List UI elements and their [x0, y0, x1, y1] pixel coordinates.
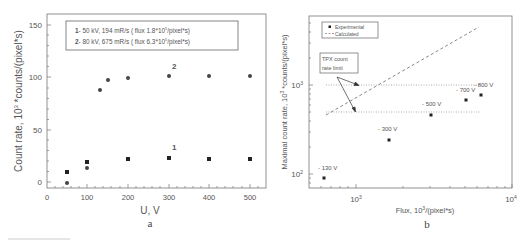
y-ticks-b	[309, 23, 313, 183]
x-axis-label-b: Flux, 103/(pixel*s)	[396, 205, 455, 215]
chart-b: 102 103 103 104 Flux, 103/(pixel*s) Maxi…	[279, 16, 517, 230]
y-axis-label-a: Count rate, 103 *counts/(pixel*s)	[13, 30, 24, 172]
tpx-label-line2: rate limit	[322, 65, 343, 71]
x-axis-label-a: U, V	[140, 205, 160, 216]
x-tick-labels-b: 103 104	[350, 194, 517, 204]
label-800v: - 800 V	[474, 82, 493, 88]
tpx-annotation: TPX count rate limit	[320, 53, 359, 112]
voltage-labels: - 130 V - 300 V - 500 V - 700 V - 800 V	[318, 82, 493, 171]
experimental-marker-icon	[329, 26, 332, 29]
x-ticks-b	[321, 184, 512, 188]
xtick-label: 300	[163, 193, 176, 202]
legend-experimental: Experimental	[335, 24, 364, 30]
series-label-2: 2	[172, 62, 177, 71]
legend-entry-2: 2- 80 kV, 675 mR/s ( flux 6.3*105/pixel*…	[75, 37, 190, 46]
figure: 0 50 100 150 0 100 200 300 400 500 U, V …	[0, 0, 529, 244]
faint-footer-mark	[8, 238, 70, 240]
ytick-label: 103	[291, 80, 303, 90]
x-ticks-a	[55, 184, 258, 188]
label-700v: - 700 V	[456, 87, 475, 93]
xtick-label: 0	[45, 193, 49, 202]
ytick-label: 50	[33, 126, 42, 135]
xtick-label: 500	[244, 193, 257, 202]
xtick-label: 400	[203, 193, 216, 202]
ytick-label: 150	[29, 21, 43, 30]
ytick-label: 100	[29, 73, 43, 82]
panel-label-b: b	[424, 218, 430, 230]
series-label-1: 1	[172, 143, 177, 152]
y-tick-labels-a: 0 50 100 150	[29, 21, 43, 187]
chart-a: 0 50 100 150 0 100 200 300 400 500 U, V …	[13, 14, 266, 229]
legend-entry-1: 1- 50 kV, 194 mR/s ( flux 1.8*105/pixel*…	[75, 26, 190, 35]
xtick-label: 200	[122, 193, 135, 202]
y-axis-label-b: Maximal count rate, 103 *counts/(pixel*s…	[279, 34, 289, 169]
arrow-head-icon	[354, 82, 359, 86]
legend-b: Experimental Calculated	[322, 22, 378, 38]
y-tick-labels-b: 102 103	[291, 80, 303, 179]
label-130v: - 130 V	[318, 165, 337, 171]
experimental-markers	[323, 94, 483, 180]
xtick-label: 100	[81, 193, 94, 202]
series-1-markers	[65, 156, 252, 174]
arrow-to-lower-limit	[337, 77, 355, 111]
x-tick-labels-a: 0 100 200 300 400 500	[45, 193, 256, 202]
arrow-head-icon	[352, 107, 356, 112]
plot-frame-b	[309, 16, 512, 188]
panel-label-a: a	[148, 217, 153, 229]
xtick-label: 103	[350, 194, 362, 204]
ytick-label: 0	[38, 178, 43, 187]
series-2-markers	[65, 74, 252, 185]
label-500v: - 500 V	[422, 101, 441, 107]
ytick-label: 102	[291, 169, 303, 179]
label-300v: - 300 V	[378, 126, 397, 132]
legend-calculated: Calculated	[335, 31, 359, 37]
tpx-label-line1: TPX count	[322, 56, 348, 62]
xtick-label: 104	[505, 194, 517, 204]
y-ticks-a	[47, 25, 51, 182]
legend-a: 1- 50 kV, 194 mR/s ( flux 1.8*105/pixel*…	[66, 21, 238, 50]
